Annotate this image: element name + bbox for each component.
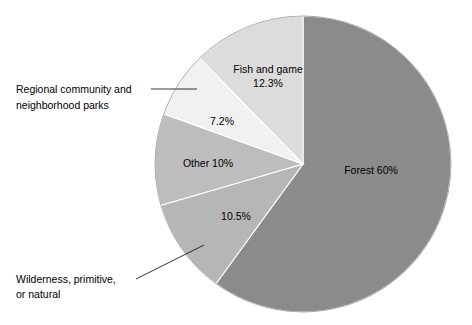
pie-chart-figure: Forest 60% 10.5% Other 10% 7.2% Fish and… xyxy=(0,0,472,325)
callout-labels: Regional community and neighborhood park… xyxy=(16,83,132,300)
slice-label-wilderness: 10.5% xyxy=(221,210,251,222)
pie-chart-svg: Forest 60% 10.5% Other 10% 7.2% Fish and… xyxy=(0,0,472,325)
slice-label-forest: Forest 60% xyxy=(344,164,398,176)
callout-regional-parks-line2: neighborhood parks xyxy=(16,99,109,111)
callout-wilderness-line2: or natural xyxy=(16,288,60,300)
callout-wilderness-line1: Wilderness, primitive, xyxy=(16,273,116,285)
slice-label-fish-and-game-name: Fish and game xyxy=(233,63,303,75)
slice-label-regional-parks: 7.2% xyxy=(210,115,234,127)
callout-regional-parks-line1: Regional community and xyxy=(16,83,132,95)
slice-label-other: Other 10% xyxy=(183,157,233,169)
slice-label-fish-and-game-value: 12.3% xyxy=(253,77,283,89)
